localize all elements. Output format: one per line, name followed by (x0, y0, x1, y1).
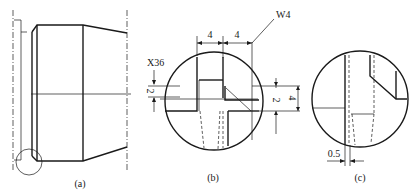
dim-w4: W4 (276, 9, 290, 20)
arrow-left-icon (223, 41, 228, 45)
dim-height-right: 2 (271, 98, 282, 103)
dim-offset: 0.5 (328, 148, 341, 159)
arrow-right-icon (340, 159, 345, 163)
leader-w4 (252, 19, 274, 43)
label-b: (b) (207, 172, 219, 184)
hidden-taper-c2 (371, 114, 374, 143)
label-a: (a) (74, 178, 85, 190)
step-right (225, 86, 259, 100)
shaft-bottom-edge (32, 147, 127, 161)
hidden-line-1 (200, 111, 204, 148)
arrow-up-icon (152, 97, 156, 102)
profile-top-step (14, 20, 27, 32)
dim-width-2: 4 (235, 29, 240, 40)
arrow-up-icon (274, 111, 278, 115)
arrow-down-icon (274, 82, 278, 86)
detail-circle (16, 149, 42, 175)
arrow-down-icon (152, 80, 156, 85)
arrow-up-icon (296, 86, 300, 90)
detail-circle-b (165, 52, 263, 150)
arrow-left-icon (197, 41, 202, 45)
hidden-taper-c1 (352, 114, 355, 145)
label-c: (c) (354, 172, 365, 184)
detail-circle-c (312, 51, 408, 147)
shaft-top-edge (32, 25, 127, 33)
arrow-down-icon (296, 107, 300, 111)
arrow-right-icon (247, 41, 252, 45)
arrow-left-icon (350, 159, 355, 163)
panel-b: X36 2 4 4 W4 (145, 9, 300, 184)
panel-c: 0.5 (c) (312, 51, 408, 184)
hidden-line-2 (218, 111, 220, 149)
dim-height-left: 2 (145, 89, 156, 94)
chamfer-c (370, 55, 407, 99)
dim-x36: X36 (147, 57, 164, 68)
dim-height-total: 4 (287, 96, 298, 101)
panel-a: (a) (13, 10, 131, 190)
dim-width-1: 4 (208, 29, 213, 40)
technical-diagram: (a) X36 2 4 4 W4 (0, 0, 417, 195)
arrow-right-icon (218, 41, 223, 45)
